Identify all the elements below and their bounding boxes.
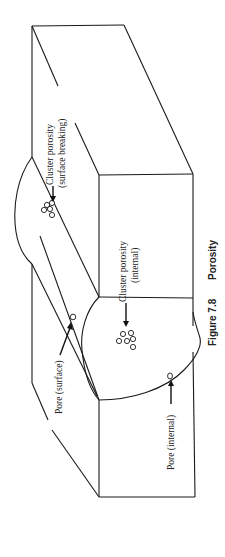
arrow-cluster-surface (50, 186, 56, 202)
label-pore-surface: Pore (surface) (54, 360, 65, 414)
pore-internal (168, 373, 173, 379)
arrow-pore-surface (60, 322, 73, 355)
cluster-porosity-surface (41, 200, 54, 217)
porosity-diagram: Cluster porosity (surface breaking) Clus… (0, 0, 225, 557)
label-cluster-internal-line1: Cluster porosity (118, 241, 128, 302)
pore-surface (70, 314, 76, 320)
cluster-porosity-internal (116, 330, 135, 349)
figure-caption: Figure 7.8 Porosity (207, 240, 218, 346)
arrow-cluster-internal (123, 303, 129, 327)
label-pore-internal: Pore (internal) (166, 415, 177, 470)
figure-number: Figure 7.8 (207, 298, 218, 346)
label-cluster-surface-line1: Cluster porosity (45, 124, 55, 185)
weld-cross-section (82, 297, 201, 400)
figure-title: Porosity (207, 240, 218, 280)
arrow-pore-internal (168, 380, 174, 404)
label-cluster-surface-line2: (surface breaking) (57, 119, 68, 188)
label-cluster-internal-line2: (internal) (130, 248, 141, 283)
